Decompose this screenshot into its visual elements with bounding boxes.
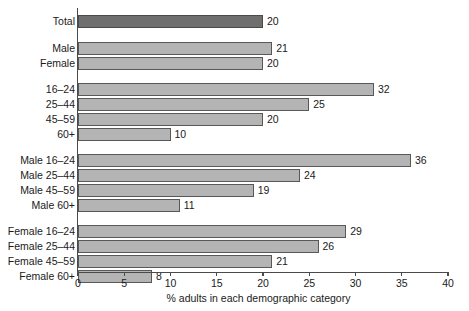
- bar-row: Female20: [0, 57, 469, 70]
- category-label: Female 60+: [0, 270, 75, 283]
- x-tick-label: 5: [121, 277, 127, 289]
- bar: [78, 42, 272, 55]
- category-label: Male 60+: [0, 199, 75, 212]
- bar-row: Female 45–5921: [0, 255, 469, 268]
- bar-value-label: 36: [415, 154, 427, 167]
- bar-row: 25–4425: [0, 98, 469, 111]
- x-tick-label: 15: [211, 277, 223, 289]
- category-label: Female 45–59: [0, 255, 75, 268]
- bar-row: Male 45–5919: [0, 184, 469, 197]
- category-label: Male 45–59: [0, 184, 75, 197]
- x-tick: [170, 272, 171, 276]
- bar-value-label: 32: [378, 83, 390, 96]
- bar-row: 60+10: [0, 128, 469, 141]
- bar-row: 45–5920: [0, 113, 469, 126]
- x-tick-label: 35: [396, 277, 408, 289]
- x-tick: [77, 272, 78, 276]
- category-label: 60+: [0, 128, 75, 141]
- bar: [78, 128, 171, 141]
- bar-value-label: 21: [276, 42, 288, 55]
- category-label: Male: [0, 42, 75, 55]
- bar-value-label: 29: [350, 225, 362, 238]
- x-tick: [309, 272, 310, 276]
- bar: [78, 240, 319, 253]
- bar-value-label: 19: [258, 184, 270, 197]
- bar: [78, 199, 180, 212]
- bar-row: Female 25–4426: [0, 240, 469, 253]
- category-label: Total: [0, 15, 75, 28]
- bar: [78, 113, 263, 126]
- bar-value-label: 20: [267, 15, 279, 28]
- x-axis-title-text: % adults in each demographic category: [167, 292, 351, 304]
- bar-row: Female 16–2429: [0, 225, 469, 238]
- bar: [78, 225, 346, 238]
- category-label: 45–59: [0, 113, 75, 126]
- bar-value-label: 10: [175, 128, 187, 141]
- bar-row: Total20: [0, 15, 469, 28]
- category-label: 25–44: [0, 98, 75, 111]
- x-tick-label: 20: [257, 277, 269, 289]
- x-tick: [262, 272, 263, 276]
- bar-row: Male 60+11: [0, 199, 469, 212]
- bar: [78, 184, 254, 197]
- x-tick-label: 10: [165, 277, 177, 289]
- bar-row: Male 16–2436: [0, 154, 469, 167]
- category-label: Female: [0, 57, 75, 70]
- x-tick: [401, 272, 402, 276]
- x-tick-label: 25: [303, 277, 315, 289]
- bar-row: Male21: [0, 42, 469, 55]
- bar: [78, 169, 300, 182]
- x-axis-title: % adults in each demographic category: [0, 292, 469, 304]
- bar-value-label: 24: [304, 169, 316, 182]
- bar: [78, 57, 263, 70]
- x-tick: [216, 272, 217, 276]
- x-tick: [355, 272, 356, 276]
- bar: [78, 83, 374, 96]
- bar-value-label: 25: [313, 98, 325, 111]
- bar-value-label: 20: [267, 57, 279, 70]
- y-axis-line: [77, 8, 78, 273]
- bar-chart: Total20Male21Female2016–243225–442545–59…: [0, 0, 469, 311]
- x-tick: [447, 272, 448, 276]
- bar-row: Male 25–4424: [0, 169, 469, 182]
- bar: [78, 15, 263, 28]
- bar: [78, 154, 411, 167]
- x-tick-label: 30: [350, 277, 362, 289]
- category-label: Male 25–44: [0, 169, 75, 182]
- category-label: Female 16–24: [0, 225, 75, 238]
- bar-row: 16–2432: [0, 83, 469, 96]
- category-label: 16–24: [0, 83, 75, 96]
- x-tick: [124, 272, 125, 276]
- category-label: Male 16–24: [0, 154, 75, 167]
- bar-value-label: 11: [184, 199, 195, 212]
- bar-value-label: 20: [267, 113, 279, 126]
- bar: [78, 255, 272, 268]
- x-tick-label: 0: [75, 277, 81, 289]
- category-label: Female 25–44: [0, 240, 75, 253]
- x-tick-label: 40: [442, 277, 454, 289]
- bar: [78, 98, 309, 111]
- bar-value-label: 26: [323, 240, 335, 253]
- bar-value-label: 21: [276, 255, 288, 268]
